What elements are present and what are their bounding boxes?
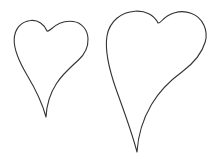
drawing-canvas	[0, 0, 220, 164]
heart-outlines-illustration	[0, 0, 220, 164]
canvas-background	[0, 0, 220, 164]
